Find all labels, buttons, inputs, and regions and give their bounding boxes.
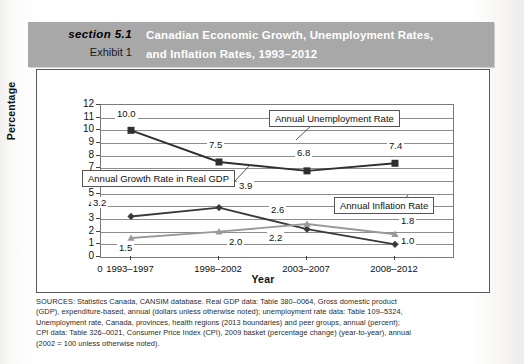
- y-tick-mark: [96, 129, 100, 130]
- sources-line-5: (2002 = 100 unless otherwise noted).: [36, 339, 488, 349]
- chart-container: Percentage 1211109876543210 01993–199719…: [36, 69, 490, 293]
- data-value-label: 2.2: [267, 232, 284, 243]
- x-axis-title: Year: [37, 273, 489, 285]
- series-line: [131, 224, 395, 238]
- data-value-label: 2.6: [269, 204, 286, 215]
- data-point-marker: [304, 167, 311, 174]
- y-tick-mark: [96, 155, 100, 156]
- y-tick-label: 3: [72, 213, 94, 223]
- y-tick-mark: [96, 231, 100, 232]
- sources-line-3: Unemployment rate, Canada, provinces, he…: [36, 318, 488, 328]
- data-value-label: 3.2: [91, 197, 108, 208]
- y-tick-label: 1: [72, 238, 94, 248]
- y-tick-mark: [96, 167, 100, 168]
- y-tick-label: 11: [72, 112, 94, 122]
- y-tick-mark: [96, 104, 100, 105]
- x-tick-mark: [218, 256, 219, 260]
- y-tick-label: 12: [72, 99, 94, 109]
- data-point-marker: [391, 241, 398, 248]
- exhibit-header-band: section 5.1 Exhibit 1 Canadian Economic …: [28, 22, 494, 67]
- y-tick-label: 9: [72, 137, 94, 147]
- y-tick-label: 8: [72, 150, 94, 160]
- data-value-label: 3.9: [237, 180, 254, 191]
- y-tick-mark: [96, 117, 100, 118]
- data-point-marker: [127, 213, 134, 220]
- data-value-label: 10.0: [115, 108, 138, 119]
- x-tick-mark: [306, 256, 307, 260]
- data-value-label: 6.8: [295, 147, 312, 158]
- callout-inflation-rate: Annual Inflation Rate: [334, 197, 434, 214]
- data-value-label: 1.8: [399, 215, 416, 226]
- section-label: section 5.1: [36, 25, 132, 43]
- y-tick-label: 2: [72, 226, 94, 236]
- sources-line-1: SOURCES: Statistics Canada, CANSIM datab…: [36, 297, 488, 307]
- data-point-marker: [128, 127, 135, 134]
- y-tick-mark: [96, 142, 100, 143]
- y-tick-mark: [96, 218, 100, 219]
- data-value-label: 2.0: [227, 236, 244, 247]
- sources-line-2: (GDP), expenditure-based, annual (dollar…: [36, 307, 488, 317]
- x-tick-mark: [394, 256, 395, 260]
- y-tick-label: 5: [72, 188, 94, 198]
- exhibit-label: Exhibit 1: [36, 43, 132, 61]
- sources-note: SOURCES: Statistics Canada, CANSIM datab…: [36, 297, 488, 349]
- data-point-marker: [392, 160, 399, 167]
- exhibit-title: Canadian Economic Growth, Unemployment R…: [146, 26, 486, 63]
- data-value-label: 1.0: [399, 235, 416, 246]
- y-tick-label: 10: [72, 124, 94, 134]
- series-line: [131, 130, 395, 171]
- data-point-marker: [215, 204, 222, 211]
- y-axis-title: Percentage: [5, 35, 19, 187]
- exhibit-title-line-1: Canadian Economic Growth, Unemployment R…: [146, 26, 486, 45]
- data-value-label: 1.5: [117, 242, 134, 253]
- exhibit-header-left: section 5.1 Exhibit 1: [36, 25, 132, 61]
- data-value-label: 7.5: [207, 139, 224, 150]
- data-point-marker: [216, 159, 223, 166]
- y-tick-mark: [96, 256, 100, 257]
- y-tick-label: 0: [72, 251, 94, 261]
- y-tick-mark: [96, 243, 100, 244]
- x-tick-mark: [130, 256, 131, 260]
- exhibit-title-line-2: and Inflation Rates, 1993–2012: [146, 45, 486, 64]
- callout-real-gdp-growth: Annual Growth Rate in Real GDP: [82, 170, 235, 187]
- y-tick-mark: [96, 193, 100, 194]
- sources-line-4: CPI data: Table 326–0021, Consumer Price…: [36, 328, 488, 338]
- data-value-label: 7.4: [387, 140, 404, 151]
- callout-unemployment-rate: Annual Unemployment Rate: [269, 110, 400, 127]
